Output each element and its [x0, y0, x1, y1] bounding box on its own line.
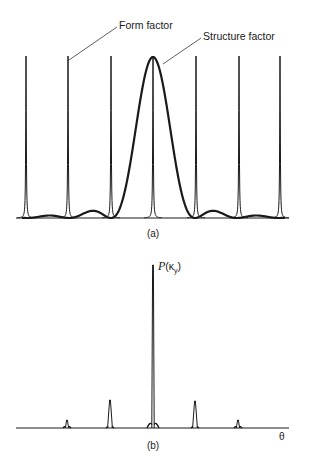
form-factor-spike	[59, 56, 77, 218]
p-kappa-y-label: P(κy)	[158, 259, 181, 274]
form-factor-label: Form factor	[119, 19, 173, 31]
panel-a-caption: (a)	[147, 228, 159, 239]
intensity-peaks	[63, 265, 242, 428]
intensity-peak	[108, 400, 113, 428]
form-factor-spikes	[17, 56, 289, 218]
panel-b-plot	[16, 265, 289, 428]
form-factor-spike	[144, 56, 162, 218]
intensity-peak	[193, 401, 198, 428]
form-factor-spike	[271, 56, 289, 218]
peak-shoulder	[147, 423, 159, 428]
structure-factor-label: Structure factor	[203, 30, 275, 42]
close-paren: )	[178, 260, 182, 272]
form-factor-spike	[187, 56, 205, 218]
panel-a-plot	[16, 27, 289, 218]
structure-factor-leader-line	[163, 38, 201, 64]
form-factor-spike	[17, 56, 35, 218]
form-factor-spike	[230, 56, 248, 218]
panel-b-caption: (b)	[147, 440, 159, 451]
theta-axis-label: θ	[279, 431, 285, 442]
form-factor-spike	[102, 56, 120, 218]
form-factor-leader-line	[69, 27, 117, 60]
intensity-peak	[152, 265, 154, 428]
